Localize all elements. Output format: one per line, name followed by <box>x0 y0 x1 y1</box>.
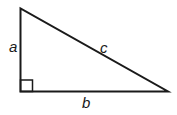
right-angle-marker <box>21 80 33 92</box>
label-b: b <box>82 94 90 111</box>
right-triangle-diagram: a c b <box>0 0 177 115</box>
label-a: a <box>9 38 17 55</box>
triangle-shape <box>21 9 169 92</box>
label-c: c <box>100 39 108 56</box>
